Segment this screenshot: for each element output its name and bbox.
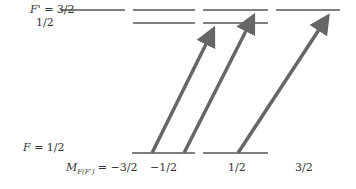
transition-arrow-2 [184, 19, 252, 153]
m-symbol: M [66, 161, 77, 174]
lower-level-label: F = 1/2 [23, 141, 65, 154]
upper-level-value: = 3/2 [41, 3, 75, 16]
m-value-1: −1/2 [150, 161, 177, 174]
m-subscript: F(F') [77, 168, 94, 176]
m-value-3: 3/2 [295, 161, 313, 174]
m-axis-label: MF(F') = −3/2 [66, 161, 138, 176]
transition-arrow-3 [238, 19, 326, 153]
upper-level-label: F' = 3/2 [30, 3, 75, 16]
lower-level-value: = 1/2 [31, 141, 65, 154]
m-first-value: = −3/2 [94, 161, 137, 174]
upper-level-symbol: F' [30, 3, 41, 16]
lower-level-symbol: F [23, 141, 31, 154]
m-value-2: 1/2 [228, 161, 246, 174]
transition-arrow-1 [152, 32, 212, 153]
upper-level-sublabel: 1/2 [36, 16, 54, 29]
